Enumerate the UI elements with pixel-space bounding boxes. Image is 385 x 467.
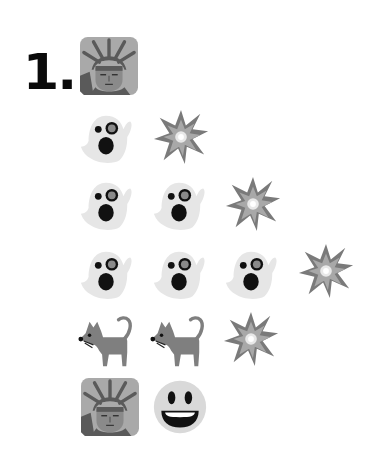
puzzle-number: 1. xyxy=(23,44,75,100)
statue-of-liberty-icon xyxy=(81,378,139,436)
cat-icon xyxy=(76,312,134,370)
ghost-icon xyxy=(77,108,135,166)
cat-icon xyxy=(148,312,206,370)
ghost-icon xyxy=(77,175,135,233)
ghost-icon xyxy=(150,175,208,233)
collision-icon xyxy=(152,108,210,166)
statue-of-liberty-icon xyxy=(80,37,138,95)
collision-icon xyxy=(297,242,355,300)
ghost-icon xyxy=(150,244,208,302)
grinning-face-icon xyxy=(152,379,210,437)
ghost-icon xyxy=(222,244,280,302)
collision-icon xyxy=(222,310,280,368)
ghost-icon xyxy=(77,244,135,302)
collision-icon xyxy=(224,175,282,233)
